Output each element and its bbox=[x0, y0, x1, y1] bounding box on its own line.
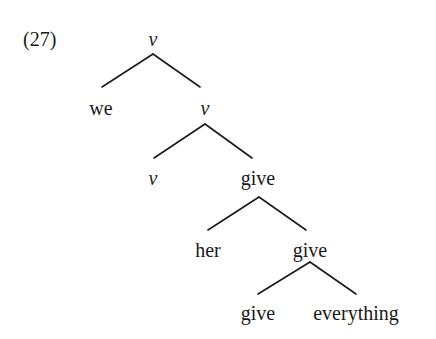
edge-v-v-lower bbox=[154, 124, 205, 158]
edge-give-give-leaf bbox=[258, 262, 310, 294]
node-give-head: give bbox=[241, 303, 275, 323]
node-her: her bbox=[195, 240, 221, 260]
node-we: we bbox=[89, 98, 112, 118]
node-v-root: v bbox=[149, 29, 158, 49]
edge-give-everything bbox=[310, 262, 356, 294]
node-give-vp: give bbox=[241, 168, 275, 188]
edge-give-give bbox=[259, 197, 306, 230]
edge-v-v bbox=[153, 54, 200, 87]
node-v-head: v bbox=[149, 168, 158, 188]
node-give-vbar: give bbox=[293, 240, 327, 260]
tree-edges bbox=[0, 0, 436, 339]
edge-v-give bbox=[205, 124, 252, 158]
edge-give-her bbox=[208, 197, 259, 230]
node-v-mid: v bbox=[201, 98, 210, 118]
node-everything: everything bbox=[313, 303, 399, 323]
edge-v-we bbox=[102, 54, 153, 87]
